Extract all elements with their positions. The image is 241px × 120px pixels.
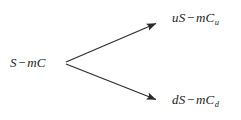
root-node-operator: − [17, 55, 28, 70]
root-node-label: S−mC [10, 56, 46, 69]
up-node-term: mC [196, 10, 214, 25]
down-node-term: mC [196, 92, 214, 107]
down-node-operator: − [185, 92, 196, 107]
root-node-term: mC [27, 55, 45, 70]
up-branch-arrow [66, 24, 156, 63]
down-node-subscript: d [215, 99, 219, 109]
down-branch-arrow [66, 64, 156, 100]
up-node-operator: − [185, 10, 196, 25]
down-node-prefix: d [172, 92, 179, 107]
up-node-label: uS−mCu [172, 11, 219, 24]
down-node-label: dS−mCd [172, 93, 219, 106]
binomial-tree-diagram: S−mC uS−mCu dS−mCd [0, 0, 241, 120]
up-node-prefix: u [172, 10, 179, 25]
up-node-subscript: u [215, 17, 219, 27]
root-node-base: S [10, 55, 17, 70]
